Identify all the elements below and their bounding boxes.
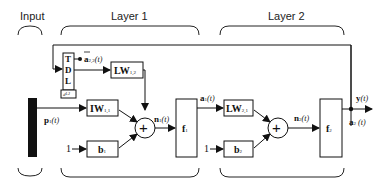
layer2-bottom-brace [220,168,344,177]
signal-n2-label: n2(t) [294,113,309,123]
signal-a2-label: a2 (t) [349,117,366,127]
layer1-top-brace [61,26,199,35]
summation-1-symbol: + [139,119,148,136]
input-p1-bar [28,98,37,157]
const-one-b2: 1 [204,143,209,154]
tdl-tap-dot [78,57,82,61]
layer1-header: Layer 1 [111,10,148,22]
const-one-b1: 1 [66,143,71,154]
signal-a22-label: a2,2(t) [84,54,103,64]
summation-2-symbol: + [272,119,281,136]
b2-to-sum2-arrow [254,134,270,148]
signal-n1-label: n1(t) [154,114,169,124]
signal-p1-label: p1(t) [44,115,59,125]
iw11-to-sum1-arrow [119,110,137,122]
tdl-letter-t: T [65,54,71,64]
signal-y-label: y(t) [356,93,368,103]
tdl-delay-label: d¹·² [63,92,70,97]
layer2-header: Layer 2 [268,10,305,22]
signal-a1-label: a1(t) [200,93,215,103]
input-bottom-brace [18,168,42,176]
layer1-bottom-brace [61,168,199,177]
output-junction-dot [349,107,353,111]
layer2-top-brace [220,26,344,35]
lw21-to-sum2-arrow [254,110,270,122]
tdl-letter-d: D [65,65,72,75]
tdl-letter-l: L [65,76,71,86]
neural-network-diagram: Input Layer 1 Layer 2 T D L d¹·² a2,2(t)… [0,0,391,189]
input-header: Input [20,10,44,22]
input-top-brace [18,26,42,35]
b1-to-sum1-arrow [119,134,137,148]
